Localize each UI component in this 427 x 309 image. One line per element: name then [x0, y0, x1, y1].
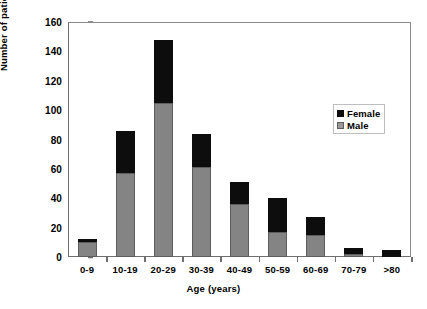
legend-label-female: Female [347, 108, 380, 119]
bar-group [268, 198, 287, 257]
bar-group [382, 250, 401, 257]
legend: Female Male [333, 104, 385, 134]
x-tick-label: >80 [384, 264, 401, 275]
x-axis-title: Age (years) [0, 283, 427, 294]
x-tick-mark [182, 257, 184, 262]
x-tick-mark [144, 257, 146, 262]
bar-group [116, 131, 135, 257]
legend-item-male: Male [337, 119, 380, 131]
bar-segment-male [78, 242, 97, 257]
x-tick-mark [259, 257, 261, 262]
bar-segment-male [344, 254, 363, 257]
x-tick-label: 60-69 [303, 264, 328, 275]
y-tick-label: 100 [28, 105, 62, 116]
bar-segment-male [154, 103, 173, 257]
y-tick-label: 80 [28, 134, 62, 145]
bar-group [78, 239, 97, 257]
bar-segment-female [306, 217, 325, 235]
x-tick-mark [335, 257, 337, 262]
bar-group [344, 248, 363, 257]
legend-item-female: Female [337, 107, 380, 119]
x-tick-mark [106, 257, 108, 262]
bar-group [306, 217, 325, 257]
x-tick-mark [373, 257, 375, 262]
bars-layer [68, 22, 411, 257]
bar-chart: Number of patients 020406080100120140160… [0, 0, 427, 309]
y-axis-title: Number of patients [0, 0, 9, 96]
bar-group [192, 134, 211, 257]
x-tick-label: 10-19 [113, 264, 138, 275]
bar-segment-male [268, 232, 287, 257]
bar-segment-female [154, 40, 173, 103]
y-tick-label: 120 [28, 75, 62, 86]
bar-segment-female [192, 134, 211, 168]
bar-segment-male [116, 173, 135, 257]
x-tick-label: 0-9 [80, 264, 94, 275]
bar-segment-female [230, 182, 249, 204]
y-tick-label: 0 [28, 252, 62, 263]
x-tick-mark [297, 257, 299, 262]
y-tick-label: 160 [28, 17, 62, 28]
y-tick-label: 140 [28, 46, 62, 57]
bar-segment-female [268, 198, 287, 232]
y-tick-label: 60 [28, 163, 62, 174]
x-tick-mark [411, 257, 413, 262]
y-tick-label: 40 [28, 193, 62, 204]
bar-group [154, 40, 173, 257]
x-tick-label: 70-79 [341, 264, 366, 275]
x-tick-label: 30-39 [189, 264, 214, 275]
y-tick-label: 20 [28, 222, 62, 233]
legend-label-male: Male [347, 120, 369, 131]
legend-swatch-male-icon [337, 122, 344, 129]
bar-group [230, 182, 249, 257]
x-tick-label: 50-59 [265, 264, 290, 275]
bar-segment-male [192, 167, 211, 257]
bar-segment-female [344, 248, 363, 254]
y-axis-ticks: 020406080100120140160 [26, 0, 62, 309]
x-tick-label: 40-49 [227, 264, 252, 275]
x-tick-mark [220, 257, 222, 262]
bar-segment-female [382, 250, 401, 257]
bar-segment-female [78, 239, 97, 242]
bar-segment-female [116, 131, 135, 174]
legend-swatch-female-icon [337, 110, 344, 117]
bar-segment-male [306, 235, 325, 257]
bar-segment-male [230, 204, 249, 257]
x-tick-label: 20-29 [151, 264, 176, 275]
